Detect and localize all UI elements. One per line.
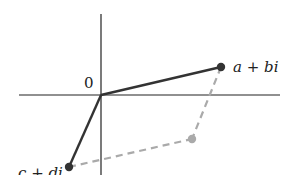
dashed-edge-a-to-sum xyxy=(192,67,221,139)
dashed-edge-c-to-sum xyxy=(69,139,192,167)
vector-a xyxy=(101,67,221,95)
point-c xyxy=(65,163,73,171)
vector-c xyxy=(69,95,101,167)
origin-label: 0 xyxy=(84,74,94,92)
point-sum xyxy=(188,135,196,143)
label-a: a + bi xyxy=(233,58,279,76)
complex-plane-diagram: 0 a + bi c + di xyxy=(0,0,284,175)
label-c: c + di xyxy=(18,164,63,175)
point-a xyxy=(217,63,225,71)
